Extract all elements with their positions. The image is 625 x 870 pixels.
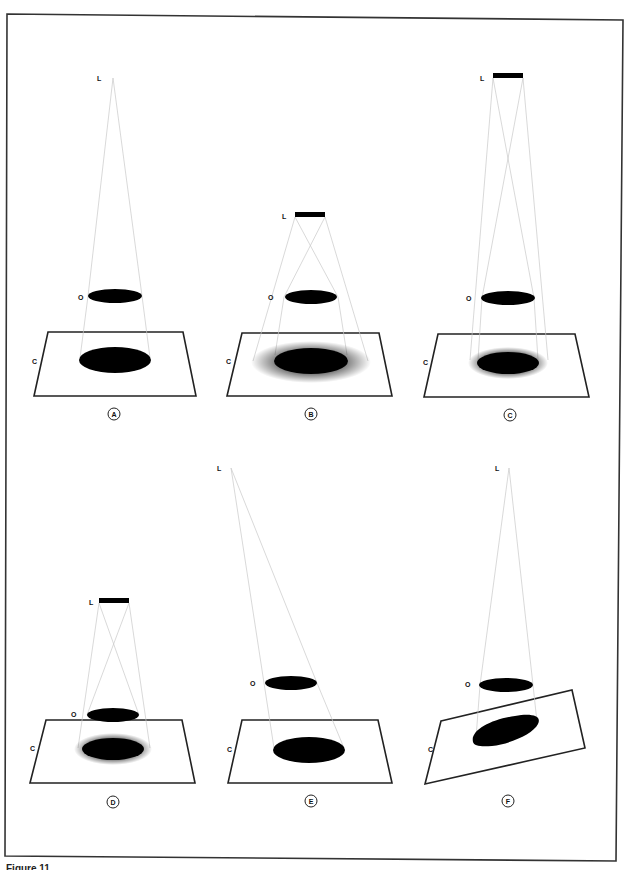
panel-c: L O C C [423, 73, 589, 421]
light-source-bar [493, 73, 523, 78]
object-label: O [466, 295, 472, 302]
light-label: L [89, 599, 94, 606]
object-label: O [78, 294, 84, 301]
shadow-umbra [79, 347, 151, 373]
light-label: L [480, 75, 485, 82]
panel-a: L O C A [32, 75, 196, 420]
object-ellipse [479, 678, 533, 692]
object-ellipse [265, 676, 317, 690]
panel-b: L O C B [226, 212, 392, 420]
panel-e: L O C E [217, 465, 392, 807]
light-source-bar [295, 212, 325, 217]
panel-label: E [309, 798, 314, 805]
shadow-geometry-figure: L O C A L O C B L O [0, 0, 625, 870]
object-label: O [71, 711, 77, 718]
shadow-umbra [274, 348, 348, 374]
light-label: L [97, 75, 102, 82]
panel-label: C [507, 412, 512, 419]
surface-label: C [428, 746, 433, 753]
light-source-bar [99, 598, 129, 603]
panel-label: B [308, 411, 313, 418]
light-label: L [282, 213, 287, 220]
panel-d: L O C D [30, 598, 195, 808]
object-ellipse [88, 289, 142, 303]
object-ellipse [285, 290, 337, 304]
object-ellipse [87, 708, 139, 722]
surface-label: C [227, 746, 232, 753]
object-label: O [250, 680, 256, 687]
figure-caption-partial: Figure 11 [6, 864, 606, 870]
surface-label: C [423, 359, 428, 366]
shadow-umbra [477, 352, 539, 374]
panel-label: D [110, 799, 115, 806]
panel-label: A [111, 411, 116, 418]
panel-f: L O C F [425, 465, 585, 807]
panel-label: F [506, 798, 511, 805]
object-label: O [465, 681, 471, 688]
object-ellipse [481, 291, 535, 305]
light-label: L [495, 465, 500, 472]
surface-label: C [30, 745, 35, 752]
light-label: L [217, 465, 222, 472]
surface-label: C [32, 358, 37, 365]
object-label: O [268, 294, 274, 301]
surface-label: C [226, 358, 231, 365]
shadow-umbra [82, 738, 144, 760]
shadow-umbra [273, 737, 345, 763]
